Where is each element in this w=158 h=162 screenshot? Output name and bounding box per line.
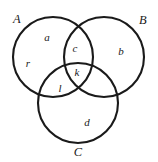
region-label-l: l: [58, 83, 61, 94]
set-label-b: B: [139, 14, 147, 27]
region-label-r: r: [26, 58, 30, 69]
region-label-b: b: [118, 46, 124, 57]
set-label-a: A: [13, 13, 21, 26]
region-label-a: a: [44, 32, 50, 43]
region-label-c: c: [73, 43, 78, 54]
venn-diagram-figure: A B C a r b c k l d: [0, 0, 158, 162]
region-label-d: d: [84, 117, 90, 128]
venn-circles-canvas: [0, 0, 158, 162]
set-label-c: C: [74, 146, 83, 159]
region-label-k: k: [75, 67, 80, 78]
set-circle-b: [64, 17, 144, 97]
